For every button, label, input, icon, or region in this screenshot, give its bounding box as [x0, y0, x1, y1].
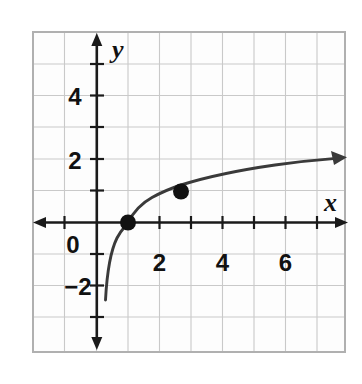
plot-background	[33, 32, 345, 352]
y-tick-label-2: 2	[68, 147, 81, 174]
coordinate-plane-svg: y x 0 2 4 6 −2 2 4	[0, 0, 362, 384]
plotted-point-1-0	[120, 215, 136, 231]
y-tick-label-minus-2: −2	[64, 273, 91, 300]
x-tick-label-2: 2	[153, 249, 166, 276]
x-axis-label: x	[323, 188, 337, 217]
y-axis-label: y	[109, 35, 124, 64]
plotted-point-3-1	[173, 184, 189, 200]
origin-label: 0	[66, 231, 79, 258]
graph-figure: y x 0 2 4 6 −2 2 4	[0, 0, 362, 384]
y-tick-label-4: 4	[68, 83, 82, 110]
x-tick-label-4: 4	[216, 249, 230, 276]
x-tick-label-6: 6	[279, 249, 292, 276]
